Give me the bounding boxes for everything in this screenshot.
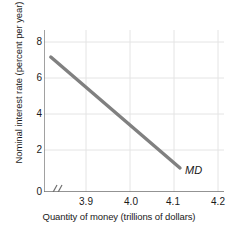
x-tick-label-3-9: 3.9 (73, 197, 99, 207)
origin-label-0: 0 (26, 187, 42, 197)
money-demand-chart: 8 6 4 2 0 3.9 4.0 4.1 4.2 Quantity of mo… (0, 0, 238, 230)
y-tick-label-2: 2 (26, 145, 42, 155)
x-tick-label-4-0: 4.0 (118, 197, 144, 207)
x-tick-label-4-1: 4.1 (160, 197, 186, 207)
y-axis-title: Nominal interest rate (percent per year) (13, 4, 24, 164)
x-tick-label-4-2: 4.2 (205, 197, 231, 207)
axis-break-icon (51, 185, 62, 192)
md-curve-label: MD (185, 164, 202, 176)
horizontal-gridlines (44, 42, 224, 150)
x-axis-title: Quantity of money (trillions of dollars) (0, 211, 238, 222)
y-tick-label-6: 6 (26, 73, 42, 83)
md-curve (51, 57, 180, 168)
y-tick-label-4: 4 (26, 109, 42, 119)
y-tick-label-8: 8 (26, 37, 42, 47)
